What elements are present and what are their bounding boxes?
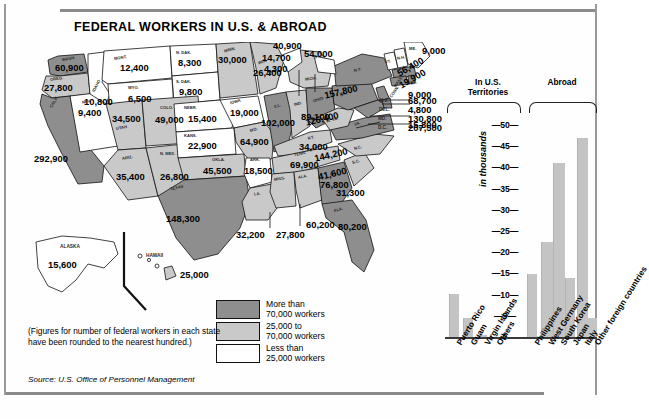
state-value-ind: 40,900	[273, 41, 302, 50]
state-value-calif: 292,900	[34, 154, 68, 163]
state-value-ala: 60,200	[306, 220, 335, 229]
callout-abbr-nj: N.J.	[380, 99, 388, 104]
y-tick-50: —50—	[485, 121, 525, 129]
state-abbr-alaska: ALASKA	[60, 245, 80, 250]
state-value-oreg: 27,800	[44, 83, 73, 92]
state-value-ill: 102,000	[261, 118, 295, 127]
state-value-fla: 80,200	[338, 222, 367, 231]
page-title: FEDERAL WORKERS IN U.S. & ABROAD	[74, 20, 327, 34]
figures-note: (Figures for number of federal workers i…	[28, 326, 228, 349]
y-tick-45: —45—	[485, 142, 525, 150]
legend-label-dark: More than 70,000 workers	[266, 300, 325, 319]
state-value-mo: 64,900	[240, 137, 269, 146]
legend-item-mid: 25,000 to 70,000 workers	[216, 322, 366, 341]
us-map-shapes	[18, 42, 443, 332]
bottom-rule	[4, 392, 544, 395]
bar-chart: In U.S. Territories Abroad in thousands …	[441, 78, 597, 378]
y-axis-title: in thousands	[478, 131, 488, 187]
y-tick-40: —40—	[485, 163, 525, 171]
state-value-kans: 22,900	[188, 141, 217, 150]
y-tick-25: —25—	[485, 227, 525, 235]
state-value-wash: 60,900	[55, 63, 84, 72]
legend-dark-line2: 70,000 workers	[266, 310, 325, 319]
state-abbr-me: ME.	[409, 47, 416, 51]
legend-mid-line2: 70,000 workers	[266, 332, 325, 341]
brace-territories	[447, 102, 521, 113]
y-tick-35: —35—	[485, 185, 525, 193]
state-value-texas: 148,300	[166, 214, 200, 223]
state-value-nmex: 26,800	[160, 172, 189, 181]
state-abbr-sdak: S. DAK.	[176, 80, 191, 84]
state-value-sc: 31,300	[336, 188, 365, 197]
y-tick-15: —15—	[485, 269, 525, 277]
legend-light-line2: 25,000 workers	[266, 354, 325, 363]
state-value-iowa: 19,000	[230, 108, 259, 117]
state-value-la: 32,200	[236, 230, 265, 239]
bar-0	[449, 294, 459, 337]
group-label-abroad: Abroad	[531, 78, 593, 88]
legend-label-mid: 25,000 to 70,000 workers	[266, 322, 325, 341]
state-value-hawaii: 25,000	[180, 270, 209, 279]
top-rule	[60, 9, 597, 12]
state-abbr-wyo: WYO.	[128, 86, 139, 90]
state-value-miss: 27,800	[276, 230, 305, 239]
state-value-mich: 54,000	[304, 49, 333, 58]
state-value-minn: 30,000	[218, 55, 247, 64]
callout-abbr-dc: D.C.	[378, 126, 387, 131]
state-value-colo: 49,000	[155, 115, 184, 124]
x-label-9: Other foreign countries	[593, 265, 649, 347]
us-map: WASH. 60,900 OREG. 27,800 IDAHO 10,800 M…	[18, 42, 443, 332]
legend-swatch-dark	[216, 300, 260, 319]
source-line: Source: U.S. Office of Personnel Managem…	[28, 375, 194, 384]
state-abbr-ark: ARK.	[250, 158, 260, 162]
state-value-ark: 18,500	[244, 166, 273, 175]
y-tick-20: —20—	[485, 248, 525, 256]
state-abbr-colo: COLO.	[160, 106, 173, 110]
state-value-alaska: 15,600	[48, 260, 77, 269]
legend-item-light: Less than 25,000 workers	[216, 344, 366, 363]
state-value-nev: 9,400	[78, 108, 101, 117]
legend-label-light: Less than 25,000 workers	[266, 344, 325, 363]
state-value-okla: 45,500	[203, 166, 232, 175]
callout-abbr-md: MD.	[378, 117, 386, 122]
group-label-territories: In U.S. Territories	[451, 78, 525, 97]
state-abbr-nebr: NEBR.	[184, 106, 197, 110]
state-value-utah: 34,500	[112, 114, 141, 123]
state-abbr-ndak: N. DAK.	[176, 51, 191, 55]
state-abbr-okla: OKLA.	[212, 158, 225, 162]
state-value-mont: 12,400	[120, 63, 149, 72]
state-value-wyo: 6,500	[128, 94, 151, 103]
y-tick-10: —10—	[485, 291, 525, 299]
state-value-me: 9,000	[422, 46, 445, 55]
group-territories-line2: Territories	[451, 88, 525, 98]
bar-chart-plot: in thousands —0——5——10——15——20——25——30——…	[441, 115, 597, 300]
callout-value-dc: 207,500	[408, 123, 442, 132]
legend-item-dark: More than 70,000 workers	[216, 300, 366, 319]
state-value-sdak: 9,800	[179, 87, 202, 96]
y-tick-30: —30—	[485, 206, 525, 214]
state-abbr-hawaii: HAWAII	[146, 254, 163, 259]
state-value-ndak: 8,300	[178, 58, 201, 67]
bar-4	[527, 274, 537, 337]
state-abbr-kans: KANS.	[184, 134, 197, 138]
left-frame-edge	[4, 4, 6, 395]
state-value-nh: 14,700	[262, 53, 291, 62]
state-value-nebr: 15,400	[188, 114, 217, 123]
state-value-vt: 4,300	[264, 64, 287, 73]
brace-abroad	[529, 102, 597, 113]
state-value-ariz: 35,400	[116, 172, 145, 181]
map-legend: More than 70,000 workers 25,000 to 70,00…	[216, 300, 366, 366]
state-abbr-nmex: N. MEX.	[160, 152, 175, 156]
callout-abbr-del: DEL.	[379, 108, 389, 113]
